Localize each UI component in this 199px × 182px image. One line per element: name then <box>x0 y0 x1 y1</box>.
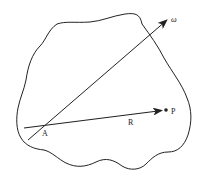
body-outline <box>17 14 191 170</box>
point-a-label: A <box>42 129 48 138</box>
rigid-body-diagram: ω P A R <box>0 0 199 182</box>
vector-r-label: R <box>128 118 134 127</box>
point-p-dot <box>164 108 168 112</box>
omega-axis-arrow <box>28 20 167 140</box>
point-p-label: P <box>171 107 176 116</box>
omega-label: ω <box>171 15 177 24</box>
position-vector-r-arrow <box>24 111 162 129</box>
